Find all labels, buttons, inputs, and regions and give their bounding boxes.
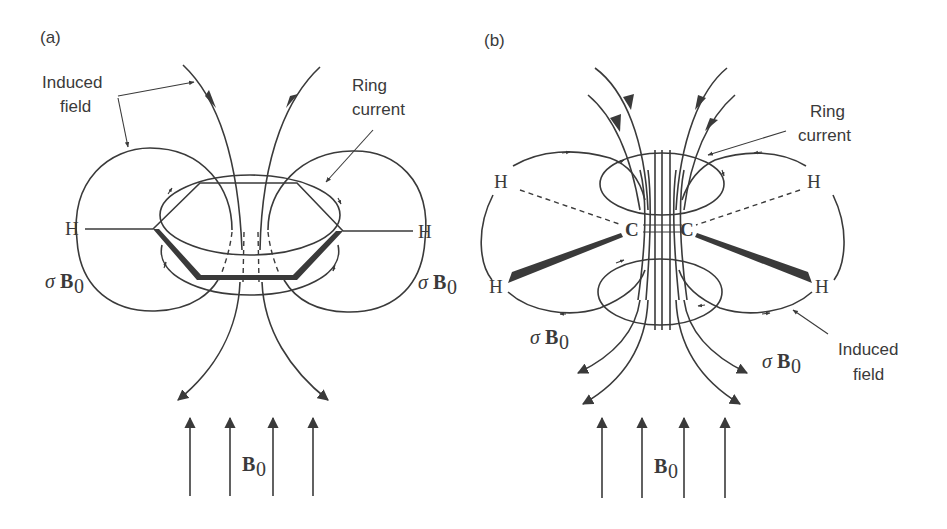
- ring-arrow-b-lower-right: [698, 305, 705, 306]
- svg-text:B: B: [777, 350, 790, 372]
- induced-field-pointer-b: [793, 310, 828, 334]
- dashed-line-3: [258, 232, 259, 282]
- field-line-b-bottom-3: [676, 300, 740, 404]
- induced-field-pointer-lobe: [118, 98, 128, 147]
- field-line-b-top-4: [684, 95, 735, 210]
- induced-lobe-right-lower: [284, 240, 425, 312]
- ring-current-ellipse-upper: [160, 175, 340, 255]
- svg-text:B: B: [654, 455, 667, 477]
- svg-text:σ: σ: [45, 270, 56, 292]
- induced-lobe-b-far-right: [833, 195, 844, 280]
- ring-current-pointer: [326, 130, 373, 182]
- dashed-line-4: [268, 232, 283, 282]
- svg-text:0: 0: [74, 275, 84, 297]
- induced-field-label-line2: field: [60, 97, 91, 116]
- atom-c-left: C: [625, 219, 639, 240]
- field-line-bottom-right: [262, 282, 328, 400]
- ring-current-label-b-line2: current: [798, 126, 851, 145]
- ring-arrow-b-lower-left: [616, 260, 624, 263]
- atom-h-b-lower-right: H: [815, 276, 829, 297]
- field-arrowhead-top-left: [205, 90, 216, 108]
- svg-text:B: B: [60, 270, 73, 292]
- induced-field-label-line1: Induced: [42, 73, 103, 92]
- svg-text:0: 0: [791, 355, 801, 377]
- svg-text:0: 0: [559, 331, 569, 353]
- panel-a-label: (a): [40, 28, 61, 47]
- svg-text:σ: σ: [762, 350, 773, 372]
- induced-lobe-right-upper: [268, 151, 426, 240]
- induced-lobe-b-far-left: [481, 195, 493, 280]
- panel-a: (a) Induced field Ring current: [40, 28, 457, 496]
- atom-h-b-upper-right: H: [807, 171, 821, 192]
- atom-h-left: H: [65, 218, 79, 239]
- ring-current-label-b-line1: Ring: [810, 102, 845, 121]
- field-arrowhead-b-1: [623, 94, 634, 110]
- field-line-b-top-3: [676, 68, 727, 210]
- field-line-b-top-2: [588, 95, 640, 210]
- induced-lobe-left-upper: [76, 148, 232, 240]
- applied-field-label-a: B 0: [242, 453, 266, 480]
- svg-text:σ: σ: [418, 271, 429, 293]
- atom-h-b-lower-left: H: [489, 276, 503, 297]
- ring-current-arrow-upper-right: [338, 198, 341, 204]
- ring-current-ellipse-b-lower: [598, 259, 722, 325]
- svg-text:σ: σ: [530, 326, 541, 348]
- ring-current-label-line2: current: [352, 100, 405, 119]
- figure-canvas: (a) Induced field Ring current: [0, 0, 947, 529]
- panel-b: (b) Ring current Induced field: [481, 31, 898, 498]
- ring-current-ellipse-lower: [161, 245, 338, 295]
- benzene-ring-back: [153, 183, 343, 231]
- field-arrowhead-b-4: [705, 118, 718, 131]
- field-line-bottom-left: [178, 282, 240, 400]
- svg-text:B: B: [545, 326, 558, 348]
- ring-current-pointer-b: [708, 131, 786, 155]
- diagram-svg: (a) Induced field Ring current: [0, 0, 947, 529]
- svg-text:B: B: [433, 271, 446, 293]
- panel-b-label: (b): [484, 31, 505, 50]
- svg-text:0: 0: [256, 458, 266, 480]
- ring-current-arrow-upper-left: [168, 188, 172, 194]
- shielding-label-left: σ B 0: [45, 270, 84, 297]
- atom-h-right: H: [418, 221, 432, 242]
- lobe-arrow-b-lower-right: [762, 313, 770, 314]
- bond-wedge-right: [695, 233, 812, 283]
- dashed-line-1: [218, 232, 232, 282]
- applied-field-label-b: B 0: [654, 455, 678, 482]
- svg-text:0: 0: [668, 460, 678, 482]
- shielding-label-right: σ B 0: [418, 271, 457, 298]
- induced-field-pointer-top: [118, 82, 194, 96]
- induced-lobe-b-lower-left: [508, 270, 645, 313]
- dashed-line-2: [243, 232, 244, 282]
- shielding-label-b-left: σ B 0: [530, 326, 569, 353]
- bond-dashed-right: [696, 190, 800, 225]
- induced-field-label-b-line2: field: [853, 365, 884, 384]
- field-line-b-top-1: [595, 68, 648, 210]
- field-line-b-bottom-4: [684, 300, 747, 373]
- atom-h-b-upper-left: H: [494, 171, 508, 192]
- bond-dashed-left: [520, 190, 622, 225]
- svg-text:0: 0: [447, 276, 457, 298]
- ring-current-label-line1: Ring: [352, 76, 387, 95]
- atom-c-right: C: [680, 219, 694, 240]
- induced-field-label-b-line1: Induced: [838, 340, 899, 359]
- shielding-label-b-right: σ B 0: [762, 350, 801, 377]
- svg-text:B: B: [242, 453, 255, 475]
